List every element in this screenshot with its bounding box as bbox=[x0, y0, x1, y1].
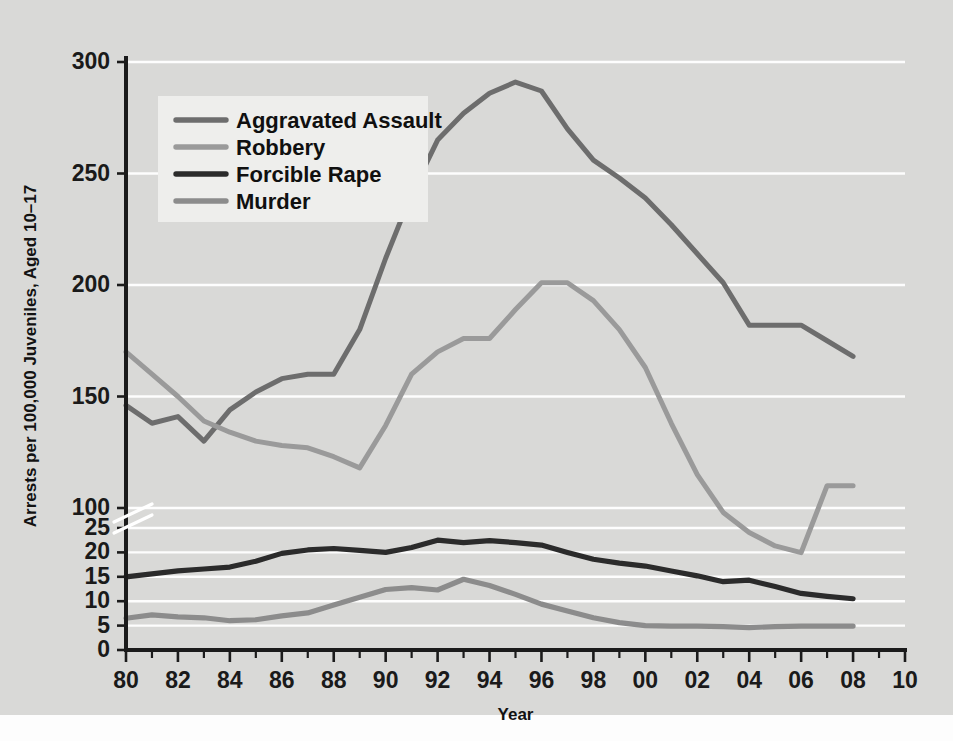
legend-label-murder: Murder bbox=[236, 189, 311, 214]
x-tick-label: 04 bbox=[736, 667, 762, 693]
y-tick-label-lower: 25 bbox=[84, 514, 110, 540]
x-tick-label: 06 bbox=[788, 667, 814, 693]
x-tick-label: 96 bbox=[529, 667, 555, 693]
x-tick-label: 84 bbox=[217, 667, 243, 693]
x-tick-label: 88 bbox=[321, 667, 347, 693]
y-tick-label-lower: 15 bbox=[84, 563, 110, 589]
y-tick-label-lower: 20 bbox=[84, 538, 110, 564]
y-tick-label-lower: 0 bbox=[97, 636, 110, 662]
x-tick-labels-group: 80828486889092949698000204060810 bbox=[113, 667, 918, 693]
x-tick-label: 82 bbox=[165, 667, 191, 693]
legend-label-forcible-rape: Forcible Rape bbox=[236, 162, 381, 187]
x-tick-label: 80 bbox=[113, 667, 139, 693]
y-axis-title: Arrests per 100,000 Juveniles, Aged 10–1… bbox=[21, 185, 40, 527]
x-tick-label: 08 bbox=[840, 667, 866, 693]
series-line-forcible-rape bbox=[126, 540, 853, 599]
legend-label-robbery: Robbery bbox=[236, 135, 326, 160]
chart-figure: 1001502002503000510152025 80828486889092… bbox=[0, 0, 953, 741]
y-tick-labels-group: 1001502002503000510152025 bbox=[72, 48, 111, 662]
series-line-murder bbox=[126, 579, 853, 627]
y-tick-label-lower: 10 bbox=[84, 587, 110, 613]
x-axis-title: Year bbox=[498, 705, 534, 724]
series-line-robbery bbox=[126, 283, 853, 553]
y-tick-label-upper: 300 bbox=[72, 48, 110, 74]
x-tick-label: 02 bbox=[684, 667, 710, 693]
line-chart-plot: 1001502002503000510152025 80828486889092… bbox=[0, 0, 953, 741]
x-tick-label: 98 bbox=[581, 667, 607, 693]
x-tick-label: 92 bbox=[425, 667, 451, 693]
y-tick-label-upper: 200 bbox=[72, 271, 110, 297]
x-tick-label: 10 bbox=[892, 667, 918, 693]
x-tick-label: 00 bbox=[633, 667, 659, 693]
x-tick-label: 86 bbox=[269, 667, 295, 693]
y-tick-label-upper: 250 bbox=[72, 160, 110, 186]
chart-legend: Aggravated AssaultRobberyForcible RapeMu… bbox=[158, 96, 442, 222]
x-tick-label: 94 bbox=[477, 667, 503, 693]
y-tick-label-lower: 5 bbox=[97, 612, 110, 638]
y-tick-label-upper: 150 bbox=[72, 383, 110, 409]
legend-label-aggravated-assault: Aggravated Assault bbox=[236, 108, 442, 133]
x-tick-label: 90 bbox=[373, 667, 399, 693]
